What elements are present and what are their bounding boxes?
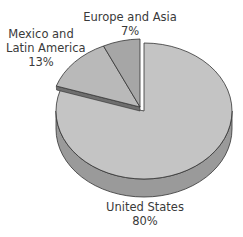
label-mexico-name-1: Mexico and bbox=[6, 27, 76, 41]
label-mexico-latin-america: Mexico and Latin America 13% bbox=[6, 27, 76, 69]
label-mexico-value: 13% bbox=[6, 55, 76, 69]
label-us-name: United States bbox=[95, 200, 195, 214]
label-europe-name: Europe and Asia bbox=[80, 10, 180, 24]
label-united-states: United States 80% bbox=[95, 200, 195, 228]
label-us-value: 80% bbox=[95, 214, 195, 228]
label-europe-value: 7% bbox=[80, 24, 180, 38]
label-europe-asia: Europe and Asia 7% bbox=[80, 10, 180, 38]
label-mexico-name-2: Latin America bbox=[6, 41, 76, 55]
